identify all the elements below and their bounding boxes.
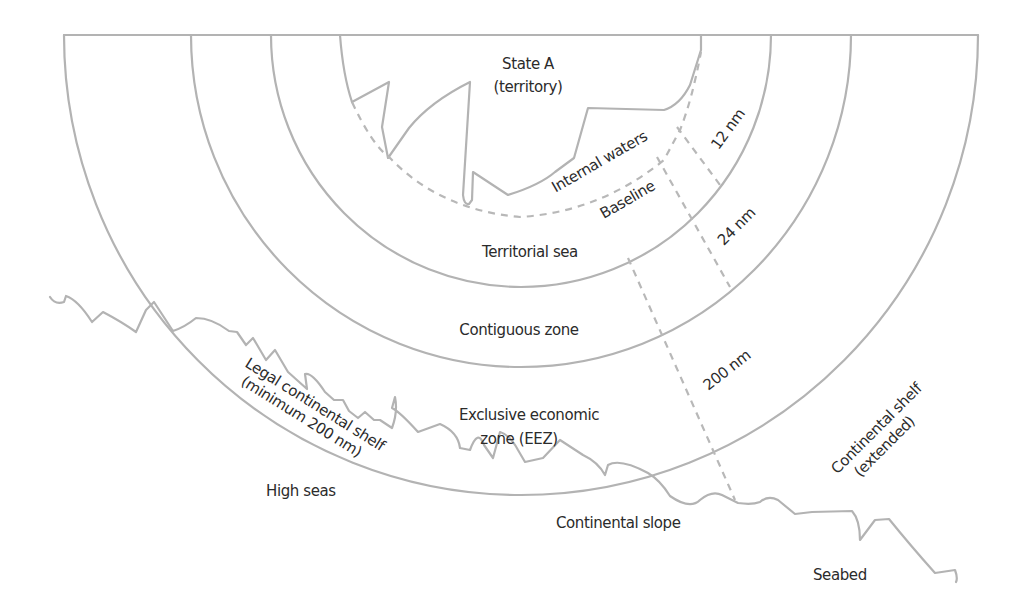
territorial-sea-label: Territorial sea [481,243,578,261]
maritime-zones-diagram: State A (territory) Internal waters Base… [0,0,1016,612]
state-a-label: State A [502,55,555,73]
eez-200nm-arc [64,35,978,495]
inner-arc [340,35,352,102]
high-seas-label: High seas [266,482,336,500]
state-a-territory-label: (territory) [494,78,563,96]
continental-slope-label: Continental slope [556,514,681,532]
distance-24nm-label: 24 nm [714,204,759,249]
seabed-label: Seabed [813,566,867,584]
contiguous-zone-label: Contiguous zone [459,321,578,339]
distance-200nm-label: 200 nm [700,346,755,394]
legal-shelf-label-line1: Legal continental shelf [242,354,389,455]
eez-label-line1: Exclusive economic [459,406,599,424]
baseline-label: Baseline [597,177,658,223]
distance-12nm-label: 12 nm [707,105,749,153]
measure-24nm-line [657,157,730,287]
eez-label-line2: zone (EEZ) [480,430,558,448]
